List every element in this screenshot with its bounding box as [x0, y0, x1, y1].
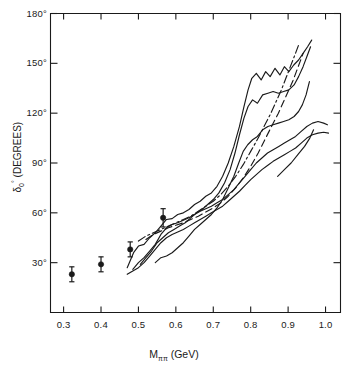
- x-axis-subscript: ππ: [158, 355, 168, 362]
- data-point: [160, 209, 165, 227]
- x-axis-unit: (GeV): [171, 348, 199, 360]
- x-axis-symbol: M: [149, 348, 158, 360]
- x-axis-label: Mππ (GeV): [0, 348, 348, 362]
- y-tick-label: 120°: [2, 107, 47, 118]
- x-tick-label: 0.7: [197, 319, 229, 330]
- x-tick-label: 1.0: [310, 319, 342, 330]
- y-axis-symbol: δ: [12, 187, 23, 193]
- y-tick-label: 60°: [2, 207, 47, 218]
- y-axis-unit: (DEGREES): [12, 122, 23, 178]
- y-axis-subscript: 0: [18, 183, 25, 187]
- data-point: [69, 267, 74, 282]
- x-tick-label: 0.3: [48, 319, 80, 330]
- curve-solid: [133, 121, 328, 269]
- x-tick-label: 0.6: [160, 319, 192, 330]
- curve-dashdot: [138, 45, 298, 241]
- y-tick-label: 180°: [2, 8, 47, 19]
- curve-series: [127, 40, 328, 274]
- x-tick-label: 0.5: [122, 319, 154, 330]
- y-tick-label: 30°: [2, 257, 47, 268]
- y-tick-label: 150°: [2, 57, 47, 68]
- x-tick-label: 0.8: [235, 319, 267, 330]
- axis-frame: [51, 14, 341, 313]
- x-tick-label: 0.9: [272, 319, 304, 330]
- axis-tickmarks: [51, 14, 341, 313]
- figure-container: δ0° (DEGREES) Mππ (GeV) 0.30.40.50.60.70…: [0, 0, 348, 380]
- data-points-with-errorbars: [69, 209, 166, 282]
- y-axis-degree-sup: °: [11, 180, 18, 183]
- x-tick-label: 0.4: [85, 319, 117, 330]
- y-tick-label: 90°: [2, 157, 47, 168]
- data-point: [98, 257, 103, 272]
- data-point: [128, 242, 133, 257]
- curve-solid: [155, 82, 309, 263]
